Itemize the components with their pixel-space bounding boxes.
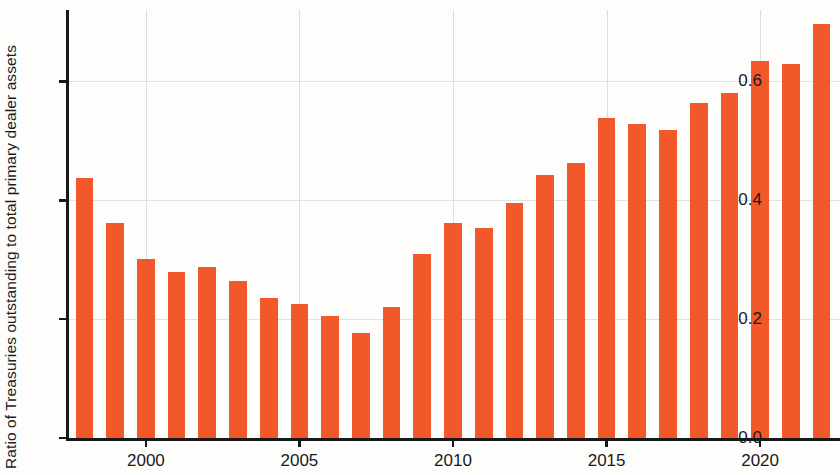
bar [659, 130, 677, 439]
bar [444, 223, 462, 438]
y-axis-line [66, 10, 69, 438]
plot-area: 0.00.20.40.6 20002005201020152020 [66, 10, 840, 438]
bar [352, 333, 370, 438]
x-tick-label: 2010 [434, 451, 472, 471]
x-tick-label: 2005 [280, 451, 318, 471]
bar [198, 267, 216, 438]
y-tick-label: 0.4 [738, 190, 762, 210]
bar [536, 175, 554, 438]
bar [229, 281, 247, 438]
bar [168, 272, 186, 438]
bar [76, 178, 94, 438]
bar [260, 298, 278, 438]
x-tick-label: 2000 [127, 451, 165, 471]
y-tick-mark [59, 437, 66, 440]
x-tick-mark [452, 439, 455, 447]
bar [813, 24, 831, 438]
x-tick-mark [605, 439, 608, 447]
bar [506, 203, 524, 438]
bar [321, 316, 339, 438]
y-tick-label: 0.2 [738, 309, 762, 329]
bar [475, 228, 493, 438]
y-tick-mark [59, 199, 66, 202]
x-tick-mark [298, 439, 301, 447]
bar [413, 254, 431, 438]
bar [567, 163, 585, 438]
bar [598, 118, 616, 438]
y-axis-title: Ratio of Treasuries outstanding to total… [2, 45, 20, 469]
y-tick-mark [59, 318, 66, 321]
bar [751, 61, 769, 439]
bar [721, 93, 739, 438]
x-tick-label: 2020 [741, 451, 779, 471]
bar [106, 223, 124, 438]
y-tick-mark [59, 80, 66, 83]
bar [291, 304, 309, 438]
y-axis-title-container: Ratio of Treasuries outstanding to total… [0, 0, 28, 475]
x-tick-label: 2015 [588, 451, 626, 471]
bar [690, 103, 708, 438]
bar [383, 307, 401, 438]
gridline [68, 81, 840, 82]
bar [782, 64, 800, 438]
bar [628, 124, 646, 439]
x-tick-mark [145, 439, 148, 447]
y-tick-label: 0.6 [738, 71, 762, 91]
bar [137, 259, 155, 439]
x-tick-mark [759, 439, 762, 447]
chart-figure: Ratio of Treasuries outstanding to total… [0, 0, 840, 475]
